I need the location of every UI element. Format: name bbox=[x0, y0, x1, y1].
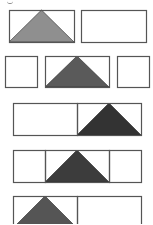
cell-rect bbox=[6, 57, 38, 88]
cell-rect bbox=[118, 57, 150, 88]
cell-rect bbox=[14, 104, 78, 136]
triangle-shape bbox=[9, 10, 74, 42]
triangle-shape bbox=[13, 196, 77, 224]
cell-rect bbox=[78, 197, 142, 225]
diagram-row-3 bbox=[14, 103, 142, 136]
triangle-rows-diagram bbox=[0, 0, 153, 224]
cell-rect bbox=[14, 151, 46, 183]
figure-canvas bbox=[0, 0, 153, 224]
triangle-shape bbox=[77, 103, 141, 135]
cell-rect bbox=[110, 151, 142, 183]
diagram-row-2 bbox=[6, 56, 150, 88]
diagram-row-5 bbox=[13, 196, 142, 224]
triangle-shape bbox=[45, 150, 109, 182]
cell-rect bbox=[82, 11, 147, 43]
diagram-row-1 bbox=[9, 10, 147, 43]
diagram-row-4 bbox=[14, 150, 142, 183]
triangle-shape bbox=[45, 56, 109, 87]
